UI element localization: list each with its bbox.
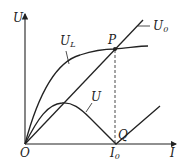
diagram-canvas: U I O P Q U0 UL U I0 (0, 0, 189, 168)
point-q-label: Q (118, 128, 128, 142)
u-leader (86, 103, 92, 112)
u0-label: U0 (153, 19, 168, 34)
x-axis-label: I (169, 146, 175, 160)
curve-u0 (25, 20, 143, 144)
u-label: U (91, 90, 102, 104)
curve-ul (25, 46, 148, 144)
origin-label: O (20, 146, 30, 160)
i0-tick-label: I0 (109, 146, 120, 161)
point-p-label: P (107, 33, 117, 47)
point-p-marker (113, 47, 117, 51)
ul-label: UL (60, 34, 75, 49)
y-axis-label: U (13, 11, 24, 25)
